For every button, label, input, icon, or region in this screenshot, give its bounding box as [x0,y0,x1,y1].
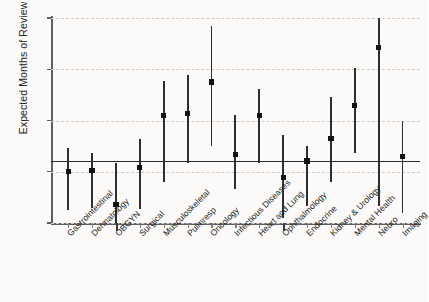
x-tick-6 [211,223,212,228]
data-point-marker [233,152,238,157]
data-point-marker [328,136,333,141]
error-bar [211,26,213,146]
data-point-marker [161,113,166,118]
x-tick-8 [259,223,260,228]
x-tick-10 [307,223,308,228]
data-point-marker [304,158,309,163]
data-point-marker [257,113,262,118]
error-bar [402,121,404,214]
data-point-marker [185,111,190,116]
y-tick-mark-48 [47,69,51,70]
error-bar [306,146,308,206]
gridline-60 [51,18,420,19]
x-tick-14 [403,223,404,228]
error-bar [258,89,260,162]
data-point-marker [66,169,71,174]
y-tick-mark-60 [47,17,51,18]
gridline-48 [51,69,420,70]
error-bar [354,68,356,153]
error-bar [139,139,141,209]
error-bar [187,75,189,163]
y-tick-mark-12 [47,222,51,223]
x-tick-9 [283,223,285,231]
x-tick-7 [235,223,236,228]
error-bar [91,153,93,208]
y-axis-title: Expected Months of Review [17,0,29,153]
x-tick-5 [188,223,189,228]
data-point-marker [352,103,357,108]
data-point-marker [281,175,286,180]
x-tick-1 [92,223,93,228]
error-bar [163,81,165,181]
x-tick-11 [331,223,332,228]
x-tick-2 [116,223,118,231]
x-tick-13 [379,223,380,228]
error-bar [115,163,117,223]
data-point-marker [209,79,214,84]
data-point-marker [400,154,405,159]
x-tick-3 [140,223,141,228]
x-tick-12 [355,223,356,228]
x-tick-0 [68,223,69,228]
plot-area [51,18,420,223]
data-point-marker [376,45,381,50]
data-point-marker [113,202,118,207]
x-tick-4 [164,223,165,228]
data-point-marker [89,168,94,173]
data-point-marker [137,165,142,170]
error-bar [67,148,69,210]
y-tick-mark-24 [47,171,51,172]
y-tick-mark-36 [47,120,51,121]
